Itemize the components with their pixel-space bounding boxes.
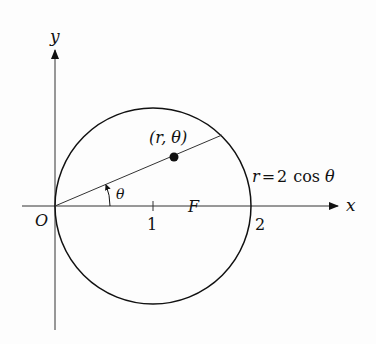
tick-label-2: 2 (255, 215, 265, 234)
equation-label: r=2cosθ (252, 167, 335, 186)
focus-label: F (187, 197, 200, 216)
polar-diagram: y x O 1 2 F θ (r, θ) r=2cosθ (0, 0, 376, 344)
y-axis-label: y (49, 26, 60, 46)
angle-arc-icon (106, 185, 110, 206)
point-marker (170, 153, 179, 162)
x-axis-label: x (346, 195, 356, 215)
radius-ray (55, 135, 222, 206)
diagram-canvas: y x O 1 2 F θ (r, θ) r=2cosθ (0, 0, 376, 344)
equation-fn: cos (293, 167, 320, 186)
tick-label-1: 1 (147, 215, 157, 234)
origin-label: O (35, 211, 48, 230)
equation-eq: = (262, 167, 275, 186)
angle-label: θ (116, 186, 125, 202)
equation-coef: 2 (277, 167, 287, 186)
equation-lhs: r (252, 167, 261, 186)
point-label: (r, θ) (149, 128, 187, 147)
equation-var: θ (325, 167, 335, 186)
